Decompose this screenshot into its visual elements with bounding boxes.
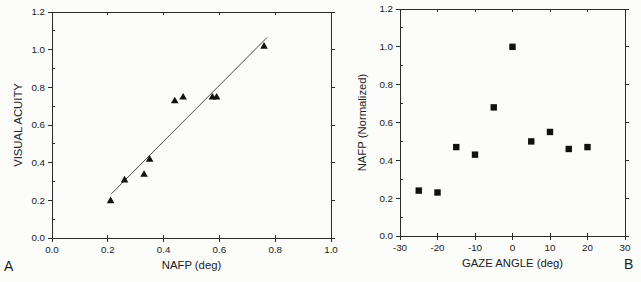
x-tick-label: 1.0: [324, 244, 338, 255]
x-tick-label: -20: [430, 242, 445, 253]
data-point-marker: [434, 189, 440, 195]
tick-labels: 0.00.20.40.60.81.00.00.20.40.60.81.01.2: [31, 6, 338, 255]
x-tick-label: 20: [582, 242, 593, 253]
data-points: [416, 44, 591, 196]
data-point-marker: [491, 104, 497, 110]
panel-a-letter: A: [4, 258, 14, 274]
data-point-marker: [453, 144, 459, 150]
data-point-marker: [566, 146, 572, 152]
x-axis-label: GAZE ANGLE (deg): [462, 257, 563, 269]
panel-b-letter: B: [624, 256, 634, 272]
data-point-marker: [121, 176, 129, 183]
fit-line: [111, 37, 267, 193]
x-tick-label: 0.6: [213, 244, 227, 255]
y-tick-label: 1.2: [31, 6, 45, 17]
y-tick-label: 0.0: [31, 232, 45, 243]
y-tick-label: 1.0: [31, 44, 45, 55]
two-panel-scatter-figure: 0.00.20.40.60.81.00.00.20.40.60.81.01.2N…: [0, 0, 641, 282]
panel-a-chart: 0.00.20.40.60.81.00.00.20.40.60.81.01.2N…: [0, 0, 345, 282]
x-tick-label: 30: [620, 242, 631, 253]
data-point-marker: [584, 144, 590, 150]
x-axis-label: NAFP (deg): [162, 259, 222, 271]
x-tick-label: -30: [393, 242, 408, 253]
y-tick-label: 0.2: [379, 193, 393, 204]
data-point-marker: [509, 44, 515, 50]
data-point-marker: [547, 129, 553, 135]
data-point-marker: [528, 138, 534, 144]
x-tick-label: 0.8: [268, 244, 282, 255]
y-tick-label: 0.4: [31, 157, 45, 168]
data-point-marker: [472, 151, 478, 157]
data-point-marker: [179, 93, 187, 100]
x-tick-label: 0.2: [101, 244, 115, 255]
data-point-marker: [107, 197, 115, 204]
x-tick-label: 0: [510, 242, 516, 253]
data-point-marker: [140, 170, 148, 177]
x-tick-label: 0.0: [45, 244, 59, 255]
x-tick-label: 10: [545, 242, 556, 253]
tick-labels: -30-20-1001020300.00.20.40.60.81.01.2: [379, 3, 631, 253]
data-point-marker: [171, 97, 179, 104]
x-tick-label: 0.4: [157, 244, 171, 255]
plot-frame: [52, 12, 331, 238]
y-axis-label: NAFP (Normalized): [356, 73, 368, 171]
y-tick-label: 0.0: [379, 230, 393, 241]
panel-b-chart: -30-20-1001020300.00.20.40.60.81.01.2GAZ…: [345, 0, 641, 282]
y-tick-label: 1.2: [379, 3, 393, 14]
y-tick-label: 0.4: [379, 155, 393, 166]
y-axis-label: VISUAL ACUITY: [12, 83, 24, 167]
data-point-marker: [416, 187, 422, 193]
x-tick-label: -10: [468, 242, 483, 253]
y-tick-label: 1.0: [379, 41, 393, 52]
y-tick-label: 0.6: [31, 119, 45, 130]
y-tick-label: 0.6: [379, 117, 393, 128]
data-points: [107, 42, 268, 203]
y-tick-label: 0.8: [31, 82, 45, 93]
y-tick-label: 0.2: [31, 195, 45, 206]
axis-ticks: [48, 12, 335, 242]
plot-frame: [400, 9, 625, 236]
y-tick-label: 0.8: [379, 79, 393, 90]
